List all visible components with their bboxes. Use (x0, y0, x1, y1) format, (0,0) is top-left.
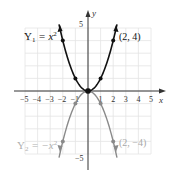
y-axis-label: y (91, 8, 96, 18)
x-tick-label: 2 (111, 95, 115, 104)
data-point (85, 88, 91, 94)
y-axis-arrow-icon (86, 10, 91, 17)
y-tick-5: 5 (79, 20, 83, 29)
y2-equation-label: Y2 = −x2 (17, 139, 58, 153)
y-tick-neg5: −5 (75, 154, 84, 163)
x-tick-label: 5 (149, 95, 153, 104)
data-point (61, 139, 65, 143)
data-point (73, 102, 77, 106)
x-tick-label: −4 (33, 95, 42, 104)
x-tick-label: −3 (45, 95, 54, 104)
parabola-graph: x y 5 −5 −5−4−3−2−112345 Y1 = x2 Y2 = −x… (0, 0, 174, 176)
x-tick-label: 3 (124, 95, 128, 104)
x-axis-label: x (158, 95, 163, 105)
data-point (73, 76, 77, 80)
x-tick-label: 4 (136, 95, 140, 104)
x-tick-label: −2 (58, 95, 67, 104)
y1-equation-label: Y1 = x2 (24, 30, 57, 44)
data-point (61, 39, 65, 43)
point-label-2-neg4: (2, −4) (119, 137, 146, 149)
y1-arrow-left-icon (58, 25, 63, 32)
x-tick-labels: −5−4−3−2−112345 (20, 95, 153, 104)
x-axis-arrow-icon (159, 89, 166, 94)
x-tick-label: −5 (20, 95, 29, 104)
data-point (111, 139, 115, 143)
data-point (99, 102, 103, 106)
point-label-2-4: (2, 4) (119, 31, 141, 43)
data-point (111, 39, 115, 43)
data-point (99, 76, 103, 80)
y1-arrow-right-icon (114, 25, 119, 32)
